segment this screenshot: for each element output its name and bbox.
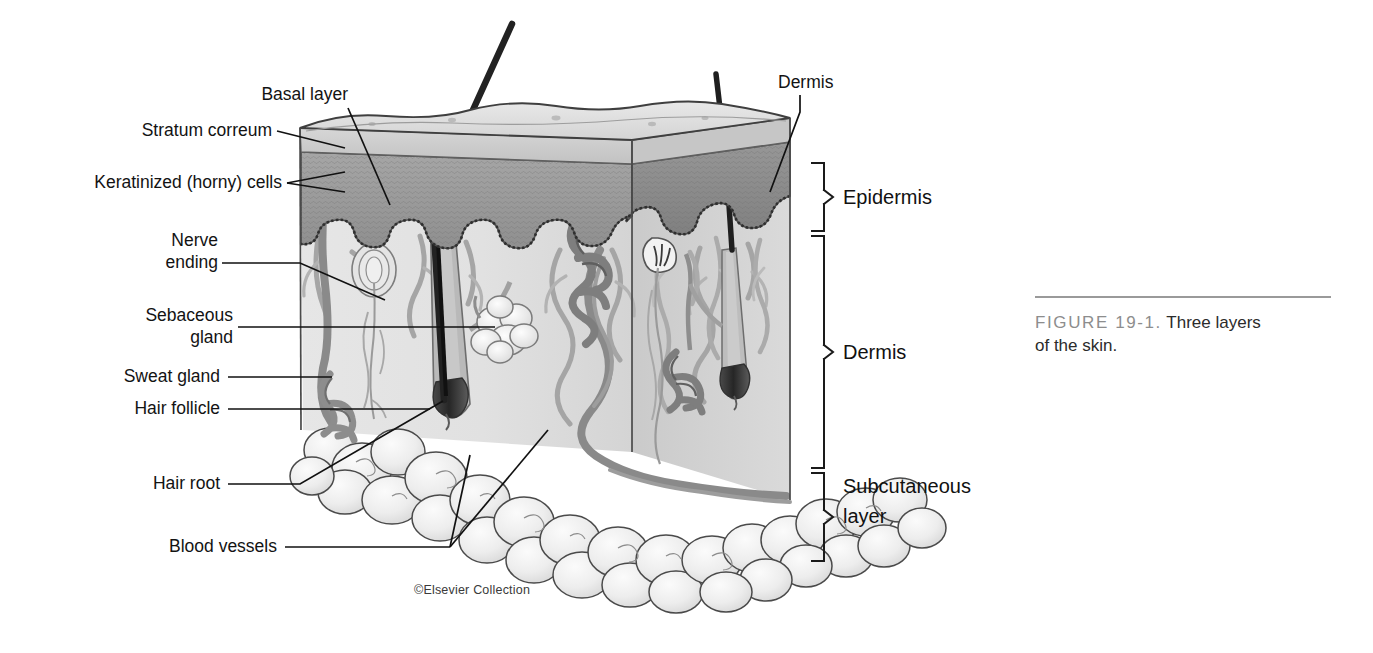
label-nerve-ending-line1: Nerve <box>100 230 218 251</box>
label-stratum-corneum: Stratum correum <box>57 120 272 141</box>
figure-number: FIGURE 19-1. <box>1035 313 1162 332</box>
layer-label-dermis: Dermis <box>843 340 906 364</box>
figure-caption-block: FIGURE 19-1. Three layers of the skin. <box>1035 296 1335 357</box>
label-dermis-top: Dermis <box>778 72 888 93</box>
layer-label-subcutaneous-line2: layer <box>843 504 886 528</box>
figure-caption-line1: Three layers <box>1166 313 1260 332</box>
layer-label-epidermis: Epidermis <box>843 185 932 209</box>
figure-caption-text: FIGURE 19-1. Three layers of the skin. <box>1035 311 1335 357</box>
label-keratinized-cells: Keratinized (horny) cells <box>20 172 282 193</box>
caption-rule <box>1035 296 1331 298</box>
label-sebaceous-gland-line1: Sebaceous <box>78 305 233 326</box>
label-hair-follicle: Hair follicle <box>88 398 220 419</box>
figure-caption-line2: of the skin. <box>1035 336 1117 355</box>
label-blood-vessels: Blood vessels <box>122 536 277 557</box>
label-basal-layer: Basal layer <box>148 84 348 105</box>
label-nerve-ending-line2: ending <box>100 252 218 273</box>
label-sebaceous-gland-line2: gland <box>78 327 233 348</box>
label-hair-root: Hair root <box>118 473 220 494</box>
label-sweat-gland: Sweat gland <box>68 366 220 387</box>
figure-19-1: Basal layer Stratum correum Keratinized … <box>0 0 1373 653</box>
layer-label-subcutaneous-line1: Subcutaneous <box>843 474 971 498</box>
credit-line: ©Elsevier Collection <box>414 583 530 597</box>
